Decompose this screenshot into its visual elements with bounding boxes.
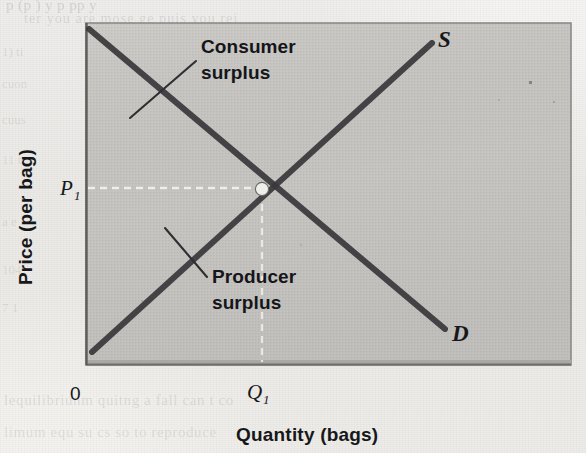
- producer-surplus-label-line1: Producer: [212, 266, 297, 287]
- chart-canvas: S D Consumer surplus Producer surplus P …: [0, 0, 586, 453]
- x-axis-title: Quantity (bags): [236, 424, 378, 445]
- consumer-surplus-label-line2: surplus: [201, 62, 270, 83]
- x-tick-label-subscript: 1: [263, 392, 270, 407]
- supply-demand-surplus-figure: p (p ) y p pp y ter you are mose ge puis…: [0, 0, 586, 453]
- plot-area: [86, 23, 571, 365]
- equilibrium-point[interactable]: [255, 182, 268, 195]
- consumer-surplus-label-line1: Consumer: [201, 36, 296, 57]
- origin-label: 0: [70, 383, 81, 404]
- demand-curve-label: D: [451, 321, 469, 346]
- y-axis-title: Price (per bag): [15, 149, 36, 285]
- y-tick-label-letter: P: [59, 176, 73, 200]
- y-tick-label-subscript: 1: [74, 188, 81, 203]
- supply-curve-label: S: [438, 27, 451, 52]
- y-tick-p1: P 1: [59, 176, 81, 203]
- producer-surplus-label-line2: surplus: [212, 292, 281, 313]
- x-tick-q1: Q 1: [247, 380, 270, 407]
- x-tick-label-letter: Q: [247, 380, 262, 404]
